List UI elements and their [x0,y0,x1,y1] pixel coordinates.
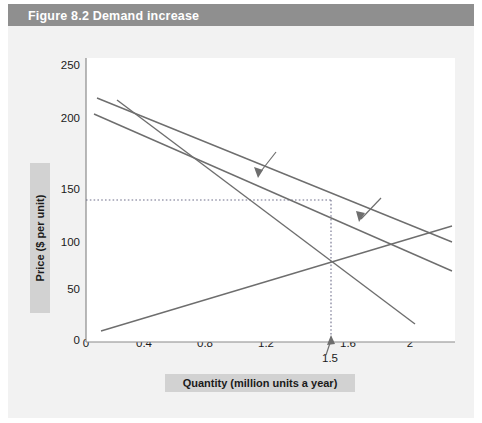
x-tick-0-4: 0.4 [130,337,158,349]
y-tick-50: 50 [48,283,80,295]
curve-label-marginal-cost: marginal cost [143,283,211,296]
quantity-callout-label: 1.5 [322,352,338,364]
curve-label-new-demand: new demand [251,138,317,151]
figure-title-bar: Figure 8.2 Demand increase [8,4,474,26]
x-tick-1-6: 1.6 [334,337,362,349]
y-tick-100: 100 [48,236,80,248]
x-tick-2: 2 [396,337,424,349]
x-tick-0-8: 0.8 [191,337,219,349]
curve-label-new-marginal-revenue-line2: revenue [376,283,418,296]
x-tick-1-2: 1.2 [252,337,280,349]
figure-container: Figure 8.2 Demand increase Price ($ per … [0,0,482,423]
figure-panel [8,26,474,418]
curve-label-original-demand: original demand [356,183,438,196]
x-axis-title: Quantity (million units a year) [183,377,338,389]
y-tick-200: 200 [48,112,80,124]
curve-label-new-marginal-revenue-line1: new marginal [376,270,444,283]
x-tick-0: 0 [72,337,100,349]
y-tick-150: 150 [48,183,80,195]
y-tick-250: 250 [48,59,80,71]
y-axis-title-box: Price ($ per unit) [30,163,50,313]
x-axis-title-box: Quantity (million units a year) [165,374,355,392]
equilibrium-point-label: a [334,247,340,259]
y-axis-title: Price ($ per unit) [34,195,46,282]
figure-title: Figure 8.2 Demand increase [28,9,199,23]
